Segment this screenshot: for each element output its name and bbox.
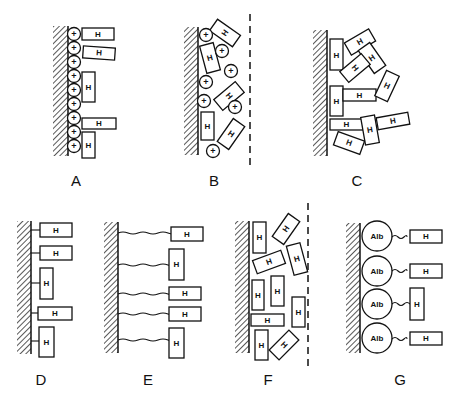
- charge-icon: +: [68, 98, 81, 111]
- heparin-block: H: [82, 118, 116, 129]
- svg-text:+: +: [71, 85, 76, 95]
- charge-icon: +: [68, 84, 81, 97]
- heparin-block: H: [255, 330, 268, 360]
- svg-text:+: +: [71, 113, 76, 123]
- svg-text:H: H: [423, 267, 429, 276]
- panel-a: + + + + + + + + + H H H H H A: [53, 26, 116, 189]
- svg-text:H: H: [265, 316, 271, 325]
- svg-text:H: H: [182, 289, 188, 298]
- svg-text:+: +: [203, 77, 208, 87]
- svg-text:+: +: [210, 146, 215, 156]
- panel-e: H H H H H E: [104, 222, 203, 388]
- heparin-block: H: [210, 19, 241, 47]
- panel-f: H H H H H H H H H H F: [235, 203, 308, 388]
- svg-text:Alb: Alb: [371, 232, 384, 241]
- svg-text:+: +: [232, 102, 237, 112]
- heparin-block: H: [40, 223, 72, 237]
- heparin-block: H: [410, 288, 424, 320]
- spacer-arm: [392, 270, 407, 273]
- heparin-block: H: [271, 276, 284, 306]
- panel-label: B: [209, 172, 219, 189]
- svg-text:Alb: Alb: [371, 300, 384, 309]
- svg-text:H: H: [95, 30, 101, 39]
- heparin-block: H: [82, 72, 95, 102]
- heparin-block: H: [333, 132, 364, 155]
- spacer-arm: [118, 339, 171, 341]
- svg-text:H: H: [184, 230, 190, 239]
- heparin-block: H: [252, 280, 264, 310]
- charge-icon: +: [225, 65, 238, 78]
- svg-text:H: H: [275, 287, 281, 296]
- heparin-block: H: [40, 246, 72, 260]
- heparin-block: H: [410, 264, 442, 278]
- heparin-block: H: [272, 214, 300, 245]
- heparin-block: H: [82, 28, 114, 40]
- svg-text:H: H: [257, 233, 263, 242]
- charge-icon: +: [68, 70, 81, 83]
- svg-text:H: H: [334, 51, 340, 60]
- panel-label: G: [394, 371, 406, 388]
- heparin-block: H: [340, 54, 370, 83]
- charge-icon: +: [200, 29, 213, 42]
- spacer-arm: [118, 264, 172, 266]
- heparin-block: H: [253, 222, 266, 253]
- svg-text:H: H: [52, 309, 58, 318]
- svg-text:+: +: [71, 71, 76, 81]
- albumin-icon: Alb: [362, 289, 392, 319]
- surface-hatch: [17, 221, 31, 354]
- svg-text:H: H: [205, 122, 211, 131]
- svg-text:Alb: Alb: [371, 267, 384, 276]
- svg-text:H: H: [174, 339, 180, 348]
- charge-icon: +: [68, 42, 81, 55]
- svg-text:+: +: [71, 141, 76, 151]
- charge-icon: +: [207, 145, 220, 158]
- svg-text:H: H: [182, 310, 188, 319]
- panel-label: F: [263, 371, 272, 388]
- heparin-block: H: [343, 89, 376, 101]
- heparin-block: H: [169, 287, 201, 300]
- heparin-block: H: [201, 112, 214, 140]
- svg-text:H: H: [96, 119, 102, 128]
- spacer-arm: [392, 338, 407, 341]
- heparin-block: H: [269, 330, 299, 360]
- charge-icon: +: [68, 56, 81, 69]
- heparin-block: H: [169, 249, 184, 280]
- svg-text:+: +: [203, 30, 208, 40]
- svg-text:H: H: [423, 232, 429, 241]
- albumin-icon: Alb: [362, 323, 392, 353]
- svg-text:+: +: [201, 96, 206, 106]
- heparin-block: H: [82, 132, 95, 158]
- heparin-block: H: [330, 86, 343, 116]
- charge-icon: +: [68, 126, 81, 139]
- svg-text:H: H: [96, 48, 103, 57]
- surface-hatch: [346, 223, 360, 353]
- spacer-arm: [118, 293, 171, 295]
- charge-icon: +: [216, 45, 229, 58]
- svg-text:H: H: [423, 334, 429, 343]
- heparin-block: H: [169, 307, 201, 321]
- heparin-block: H: [330, 39, 343, 70]
- svg-text:H: H: [86, 83, 92, 92]
- spacer-arm: [392, 236, 407, 239]
- surface-hatch: [184, 27, 198, 155]
- charge-icon: +: [229, 101, 242, 114]
- svg-text:+: +: [71, 29, 76, 39]
- charge-icon: +: [68, 112, 81, 125]
- panel-c: H H H H H H H H H H H C: [313, 29, 410, 189]
- charge-column: + + + + + + + + +: [68, 28, 81, 153]
- panel-d: H H H H H D: [17, 221, 72, 388]
- svg-text:+: +: [71, 43, 76, 53]
- heparin-block: H: [375, 70, 400, 101]
- svg-text:H: H: [174, 260, 180, 269]
- svg-text:+: +: [71, 99, 76, 109]
- svg-text:H: H: [255, 291, 261, 300]
- svg-text:H: H: [44, 338, 50, 347]
- heparin-block: H: [39, 327, 54, 357]
- svg-text:+: +: [71, 127, 76, 137]
- svg-text:H: H: [296, 308, 302, 317]
- panel-b: H + H + + + + H + H H + B: [184, 14, 250, 189]
- heparin-block: H: [410, 332, 442, 345]
- heparin-block: H: [410, 230, 442, 243]
- surface-hatch: [53, 26, 68, 156]
- panel-label: A: [71, 172, 81, 189]
